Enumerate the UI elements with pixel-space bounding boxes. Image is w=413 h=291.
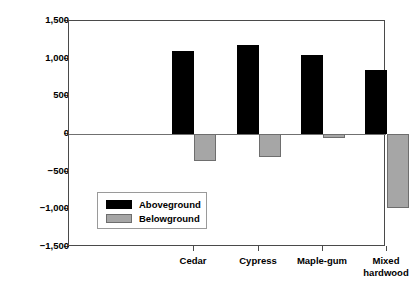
- x-axis-tick: [258, 246, 259, 251]
- x-axis-tick: [193, 246, 194, 251]
- bar-belowground: [387, 134, 409, 208]
- bar-aboveground: [237, 45, 259, 134]
- x-axis-tick-label: Mixed hardwood: [341, 255, 413, 279]
- bar-aboveground: [172, 51, 194, 134]
- bar-belowground: [323, 134, 345, 138]
- y-axis-tick-label: −1,500: [23, 241, 69, 251]
- x-axis-tick: [386, 246, 387, 251]
- legend: Aboveground Belowground: [97, 192, 207, 229]
- y-axis-tick-label: −500: [23, 166, 69, 176]
- legend-label-belowground: Belowground: [139, 213, 200, 224]
- y-axis-tick-label: 1,500: [23, 15, 69, 25]
- y-axis-tick-label-wrap: −1,500: [0, 241, 69, 251]
- legend-swatch-belowground: [106, 214, 132, 223]
- legend-item-belowground: Belowground: [106, 212, 200, 225]
- y-axis-tick-label-wrap: 0: [0, 128, 69, 138]
- bar-belowground: [259, 134, 281, 157]
- bar-aboveground: [365, 70, 387, 134]
- legend-item-aboveground: Aboveground: [106, 198, 201, 211]
- y-axis-tick-label-wrap: 1,000: [0, 53, 69, 63]
- legend-swatch-aboveground: [106, 200, 132, 209]
- y-axis-tick-label-wrap: −500: [0, 166, 69, 176]
- x-axis-tick: [322, 246, 323, 251]
- y-axis-tick-label-wrap: −1,000: [0, 203, 69, 213]
- bar-belowground: [194, 134, 216, 161]
- y-axis-tick-label: 0: [23, 128, 69, 138]
- bar-aboveground: [301, 55, 323, 134]
- y-axis-tick-label-wrap: 1,500: [0, 15, 69, 25]
- y-axis-tick-label: −1,000: [23, 203, 69, 213]
- y-axis-tick-label: 1,000: [23, 53, 69, 63]
- legend-label-aboveground: Aboveground: [139, 199, 201, 210]
- y-axis-tick-label-wrap: 500: [0, 90, 69, 100]
- y-axis-tick-label: 500: [23, 90, 69, 100]
